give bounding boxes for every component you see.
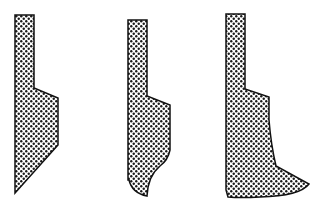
diagram-canvas <box>0 0 318 211</box>
tool-profile-1 <box>15 15 58 193</box>
tool-profile-3 <box>226 14 309 198</box>
tool-profile-2 <box>128 20 170 196</box>
